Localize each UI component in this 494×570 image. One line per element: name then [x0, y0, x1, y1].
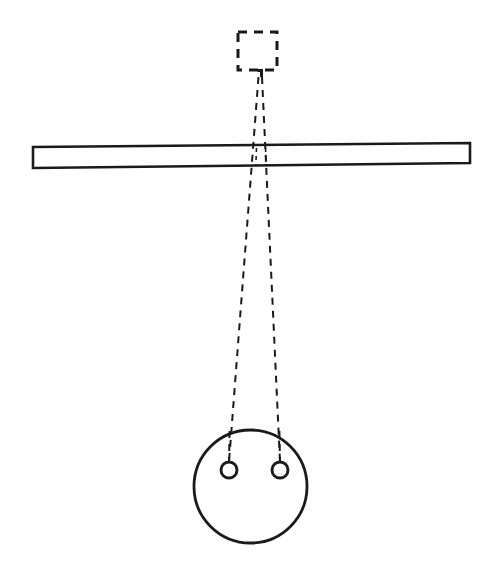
ray-tail-left	[229, 431, 230, 462]
large-circle	[194, 430, 307, 543]
dashed-square-virtual-object	[238, 32, 277, 70]
diagram-canvas	[0, 0, 494, 570]
optical-ray-diagram	[0, 0, 494, 570]
ray-segment-left-in-bar	[256, 148, 257, 166]
small-circle-left	[221, 462, 237, 478]
ray-line-left	[229, 77, 259, 462]
small-circle-right	[272, 462, 288, 478]
ray-line-right	[262, 77, 280, 462]
ray-segment-right-in-bar	[266, 148, 267, 166]
apex-notch-icon	[258, 71, 262, 78]
ray-tail-right	[279, 431, 280, 462]
